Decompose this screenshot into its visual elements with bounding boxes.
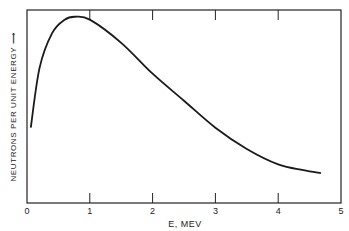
spectrum-curve bbox=[31, 17, 321, 174]
x-tick-label: 4 bbox=[276, 206, 281, 216]
chart-canvas bbox=[0, 0, 349, 231]
x-tick-label: 2 bbox=[150, 206, 155, 216]
x-tick-label: 3 bbox=[213, 206, 218, 216]
y-axis-label-text: NEUTRONS PER UNIT ENERGY bbox=[9, 47, 18, 182]
plot-frame bbox=[27, 10, 341, 203]
x-tick-label: 5 bbox=[338, 206, 343, 216]
x-axis-ticks bbox=[90, 10, 278, 203]
x-tick-label: 1 bbox=[87, 206, 92, 216]
y-axis-label: NEUTRONS PER UNIT ENERGY ⟶ bbox=[9, 32, 18, 181]
arrow-up-icon: ⟶ bbox=[9, 32, 18, 44]
x-axis-label: E, MEV bbox=[168, 219, 202, 229]
x-tick-label: 0 bbox=[24, 206, 29, 216]
